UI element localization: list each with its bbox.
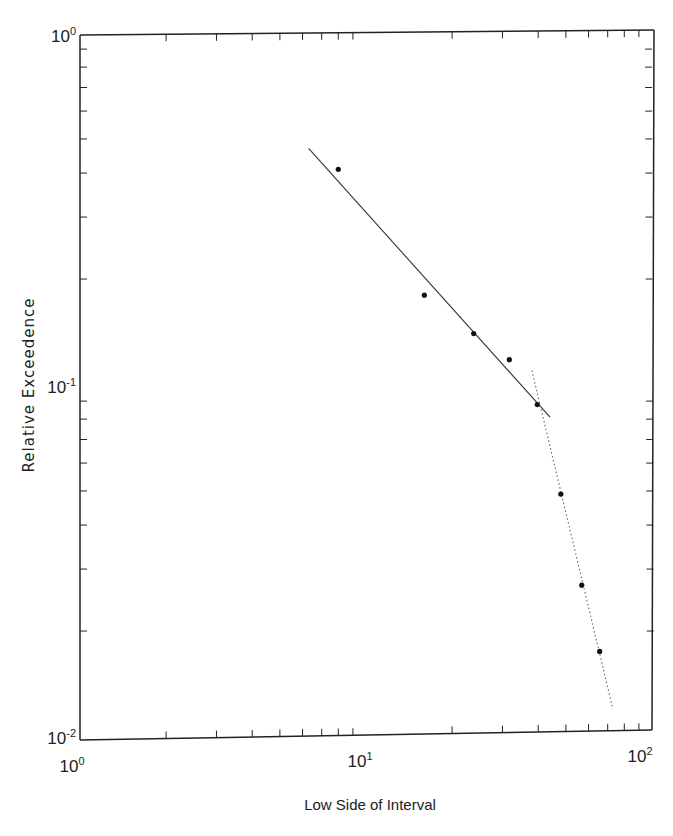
fit-lines: [309, 148, 613, 709]
x-tick-label: 102: [627, 745, 652, 766]
fit-upper-range-line: [532, 370, 613, 709]
data-point: [597, 649, 602, 654]
plot-frame: [80, 30, 654, 740]
data-point: [579, 583, 584, 588]
data-point: [336, 167, 341, 172]
y-tick-label: 10-2: [47, 727, 76, 748]
data-point: [535, 402, 540, 407]
x-axis-ticks: [166, 30, 639, 738]
data-points: [336, 167, 603, 654]
data-point: [507, 357, 512, 362]
y-tick-label: 10-1: [47, 376, 76, 397]
x-axis-title: Low Side of Interval: [304, 796, 436, 813]
data-point: [422, 293, 427, 298]
x-tick-label: 101: [347, 750, 372, 771]
fit-lower-range-line: [309, 148, 550, 417]
y-axis-ticks: [80, 49, 654, 631]
data-point: [471, 331, 476, 336]
data-point: [558, 491, 563, 496]
tick-labels: 10010110210010-110-2: [47, 25, 652, 776]
x-tick-label: 100: [59, 755, 84, 776]
chart: 10010110210010-110-2 Low Side of Interva…: [0, 0, 673, 836]
y-axis-title: Relative Exceedence: [20, 298, 38, 473]
y-tick-label: 100: [51, 25, 76, 46]
